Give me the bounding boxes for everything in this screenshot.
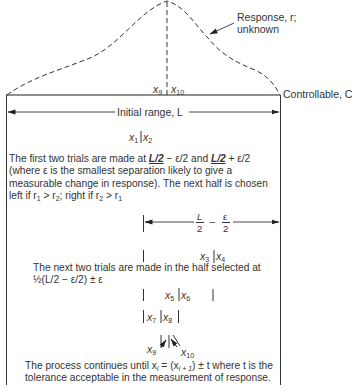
step-final-description: The process continues until xi = (xi + 1… [25,360,277,385]
marker-x1: x1 [129,131,138,143]
response-label-line2: unknown [237,23,279,35]
marker-x5: x5 [165,289,174,301]
dim-fraction-bar-1 [196,222,204,223]
marker-x7: x7 [147,311,156,323]
step2-description-line2: ½(L/2 − ε/2) ± ε [33,274,103,286]
peak-marker-x10: x10 [171,83,184,95]
arrow-x9 [161,340,166,347]
axis-label: Controllable, C [283,88,352,100]
marker-x3: x3 [200,250,209,262]
dim-den-1: 2 [197,223,202,235]
initial-range-label: Initial range, L [117,106,183,118]
response-label-line1: Response, r; [237,11,297,23]
marker-x6: x6 [181,289,190,301]
marker-x2: x2 [143,131,152,143]
bound-right-x9x10 [173,335,180,346]
marker-x4: x4 [216,250,225,262]
marker-x9: x9 [147,343,156,355]
dim-fraction-bar-2 [222,222,230,223]
dim-den-2: 2 [223,223,228,235]
marker-x10: x10 [181,346,194,358]
response-pointer [210,23,234,34]
marker-x8: x8 [163,311,172,323]
dim-minus: − [209,216,215,228]
step1-description: The first two trials are made at L/2 − ε… [9,153,281,203]
peak-marker-x9: x9 [153,83,162,95]
step2-description-line1: The next two trials are made in the half… [33,262,261,274]
